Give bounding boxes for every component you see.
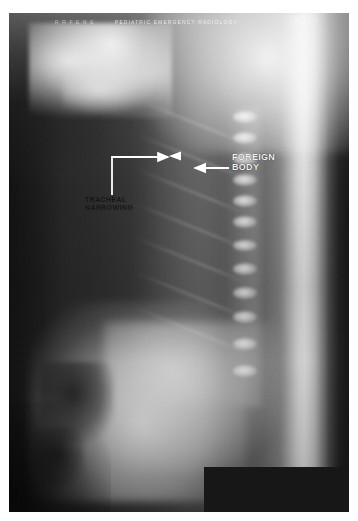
xray-figure: R R F E R E PEDIATRIC EMERGENCY RADIOLOG…: [0, 0, 358, 521]
radiograph-film: R R F E R E PEDIATRIC EMERGENCY RADIOLOG…: [9, 13, 349, 512]
label-tracheal-narrowing: TRACHEAL NARROWING: [85, 196, 133, 212]
header-right-marking: H 3 5 7: [295, 19, 319, 25]
overexposure-hotspot: [145, 13, 349, 153]
collimation-block: [204, 467, 349, 512]
header-left-marking: R R F E R E: [55, 19, 95, 25]
header-mid-marking: PEDIATRIC EMERGENCY RADIOLOGY: [115, 19, 238, 25]
film-header-strip: R R F E R E PEDIATRIC EMERGENCY RADIOLOG…: [9, 13, 349, 31]
label-foreign-body: FOREIGN BODY: [232, 152, 275, 173]
